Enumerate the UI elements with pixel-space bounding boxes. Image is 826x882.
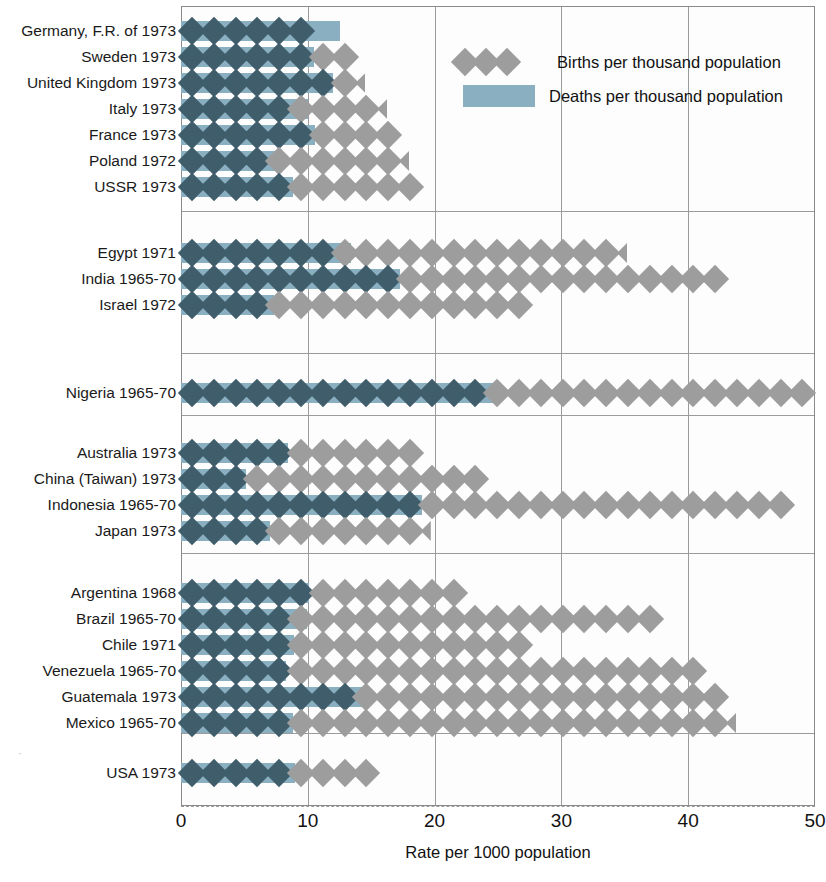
- x-axis-line: [181, 806, 815, 808]
- table-row: [181, 684, 815, 710]
- birth-diamond: [592, 239, 620, 267]
- birth-diamond: [701, 709, 729, 737]
- x-tick-0: 0: [176, 810, 187, 832]
- x-tick-50: 50: [804, 810, 825, 832]
- table-row: [181, 658, 815, 684]
- row-label: Germany, F.R. of 1973: [0, 18, 176, 44]
- table-row: [181, 710, 815, 736]
- table-row: [181, 632, 815, 658]
- row-label: USSR 1973: [0, 174, 176, 200]
- birth-diamond-partial: [377, 99, 387, 119]
- birth-diamond: [461, 465, 489, 493]
- table-row: [181, 760, 815, 786]
- table-row: [181, 122, 815, 148]
- row-label: Argentina 1968: [0, 580, 176, 606]
- x-tick-10: 10: [297, 810, 318, 832]
- group-separator-1: [182, 211, 814, 212]
- birth-diamond-partial: [355, 73, 365, 93]
- table-row: [181, 292, 815, 318]
- birth-diamond-partial: [399, 151, 409, 171]
- group-separator-3: [182, 415, 814, 416]
- x-tick-30: 30: [551, 810, 572, 832]
- row-label: Egypt 1971: [0, 240, 176, 266]
- birth-diamond: [766, 491, 794, 519]
- birth-diamond: [352, 759, 380, 787]
- row-label: France 1973: [0, 122, 176, 148]
- x-tick-20: 20: [424, 810, 445, 832]
- table-row: [181, 518, 815, 544]
- group-separator-4: [182, 553, 814, 554]
- row-label: Poland 1972: [0, 148, 176, 174]
- birth-diamond-partial: [421, 521, 431, 541]
- table-row: [181, 580, 815, 606]
- corner-artifact: ·: [18, 747, 22, 759]
- x-axis-title: Rate per 1000 population: [181, 843, 815, 862]
- birth-diamond: [396, 439, 424, 467]
- birth-diamond: [330, 43, 358, 71]
- table-row: [181, 606, 815, 632]
- birth-diamond: [701, 265, 729, 293]
- legend-item-deaths: Deaths per thousand population: [455, 82, 783, 110]
- chart-legend: Births per thousand population Deaths pe…: [455, 48, 783, 116]
- birth-diamond: [505, 631, 533, 659]
- table-row: [181, 148, 815, 174]
- row-label: Brazil 1965-70: [0, 606, 176, 632]
- deaths-bar-icon: [463, 85, 535, 107]
- row-label: Guatemala 1973: [0, 684, 176, 710]
- row-label: United Kingdom 1973: [0, 70, 176, 96]
- row-label: Venezuela 1965-70: [0, 658, 176, 684]
- birth-diamond: [396, 173, 424, 201]
- row-label: China (Taiwan) 1973: [0, 466, 176, 492]
- table-row: [181, 380, 815, 406]
- birth-diamond: [374, 147, 402, 175]
- legend-diamond: [493, 48, 521, 76]
- birth-diamond: [788, 379, 816, 407]
- legend-item-births: Births per thousand population: [455, 48, 783, 76]
- table-row: [181, 492, 815, 518]
- table-row: [181, 440, 815, 466]
- table-row: [181, 240, 815, 266]
- table-row: [181, 174, 815, 200]
- row-label: Nigeria 1965-70: [0, 380, 176, 406]
- row-label: USA 1973: [0, 760, 176, 786]
- birth-diamond-partial: [726, 713, 736, 733]
- birth-diamond: [505, 291, 533, 319]
- row-label: Japan 1973: [0, 518, 176, 544]
- row-label: Indonesia 1965-70: [0, 492, 176, 518]
- birth-diamond: [374, 121, 402, 149]
- births-diamond-icon: [455, 50, 543, 74]
- birth-diamond: [636, 605, 664, 633]
- birth-diamond-partial: [617, 243, 627, 263]
- birth-diamond: [701, 683, 729, 711]
- birth-diamond: [679, 657, 707, 685]
- table-row: [181, 266, 815, 292]
- row-label: Mexico 1965-70: [0, 710, 176, 736]
- row-label: India 1965-70: [0, 266, 176, 292]
- row-label: Israel 1972: [0, 292, 176, 318]
- table-row: [181, 466, 815, 492]
- birth-diamond: [352, 95, 380, 123]
- birth-diamond: [330, 69, 358, 97]
- row-label: Chile 1971: [0, 632, 176, 658]
- legend-label-deaths: Deaths per thousand population: [549, 87, 783, 106]
- row-label: Italy 1973: [0, 96, 176, 122]
- row-label: Sweden 1973: [0, 44, 176, 70]
- birth-diamond: [439, 579, 467, 607]
- row-label: Australia 1973: [0, 440, 176, 466]
- group-separator-2: [182, 353, 814, 354]
- table-row: [181, 18, 815, 44]
- birth-diamond: [396, 517, 424, 545]
- legend-label-births: Births per thousand population: [557, 53, 781, 72]
- x-tick-40: 40: [678, 810, 699, 832]
